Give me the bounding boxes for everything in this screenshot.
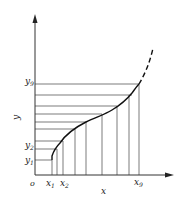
x1-label: x1 <box>46 178 55 189</box>
x2-label: x2 <box>60 178 69 189</box>
vertical-lines <box>52 84 139 175</box>
curve-extension-dashed <box>139 48 153 84</box>
y-axis-arrow-icon <box>33 14 38 23</box>
y9-label: y9 <box>24 76 34 87</box>
origin-label: o <box>30 179 35 188</box>
y2-label: y2 <box>24 140 34 151</box>
x-axis-arrow-icon <box>165 173 174 178</box>
x-axis-label: x <box>101 186 106 196</box>
x9-label: x9 <box>134 177 143 188</box>
y1-label: y1 <box>24 155 34 166</box>
diagram-canvas: o x1 x2 x9 x y1 y2 y9 y <box>0 0 184 211</box>
y-axis-label: y <box>11 114 21 121</box>
